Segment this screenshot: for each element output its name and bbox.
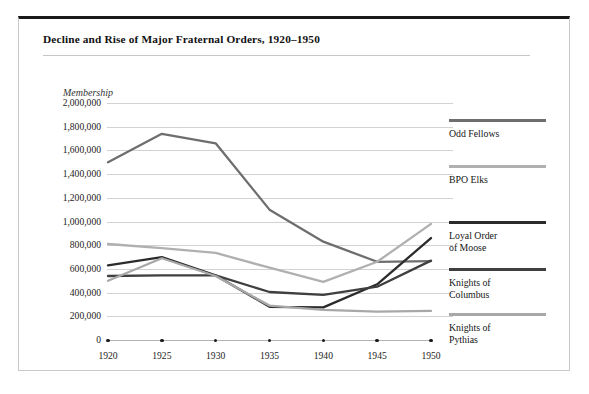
legend-label: Loyal Order of Moose [449, 230, 566, 255]
legend-label: Knights of Pythias [449, 322, 566, 347]
legend-swatch [449, 268, 546, 271]
legend-label: Knights of Columbus [449, 277, 566, 302]
legend-label: BPO Elks [449, 174, 566, 186]
legend-label: Odd Fellows [449, 128, 566, 140]
legend-swatch [449, 313, 546, 316]
chart-figure: Decline and Rise of Major Fraternal Orde… [18, 16, 570, 371]
series-lines [19, 19, 571, 374]
legend-swatch [449, 165, 546, 168]
legend-swatch [449, 119, 546, 122]
legend-swatch [449, 221, 546, 224]
plot-area: 0200,000400,000600,000800,0001,000,0001,… [19, 19, 571, 374]
series-line [108, 224, 431, 282]
series-line [108, 134, 431, 262]
series-line [108, 261, 431, 295]
